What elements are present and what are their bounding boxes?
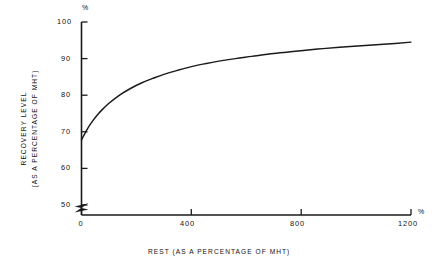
- y-axis-percent-symbol: %: [82, 4, 88, 11]
- x-axis-title: REST (AS A PERCENTAGE OF MHT): [148, 248, 290, 255]
- x-axis-percent-symbol: %: [418, 208, 424, 215]
- y-tick-label-100: 100: [57, 17, 72, 26]
- y-tick-label-60: 60: [61, 163, 71, 172]
- data-curve-recovery: [82, 42, 412, 140]
- chart-plot-area: [0, 0, 441, 272]
- chart-figure: 100 90 80 70 60 50 0 400 800 1200 % % RE…: [0, 0, 441, 272]
- y-tick-label-90: 90: [61, 54, 71, 63]
- y-tick-marks: [82, 22, 88, 205]
- x-tick-label-400: 400: [180, 219, 195, 228]
- x-tick-label-800: 800: [290, 219, 305, 228]
- y-axis-title-line1: RECOVERY LEVEL: [20, 92, 27, 166]
- y-tick-label-50: 50: [61, 200, 71, 209]
- x-tick-label-1200: 1200: [398, 219, 418, 228]
- y-axis-title: RECOVERY LEVEL (AS A PERCENTAGE OF MHT): [19, 54, 40, 204]
- x-tick-label-0: 0: [79, 219, 84, 228]
- y-tick-label-80: 80: [61, 90, 71, 99]
- x-tick-marks: [82, 209, 412, 215]
- y-tick-label-70: 70: [61, 127, 71, 136]
- y-axis-title-line2: (AS A PERCENTAGE OF MHT): [29, 54, 40, 204]
